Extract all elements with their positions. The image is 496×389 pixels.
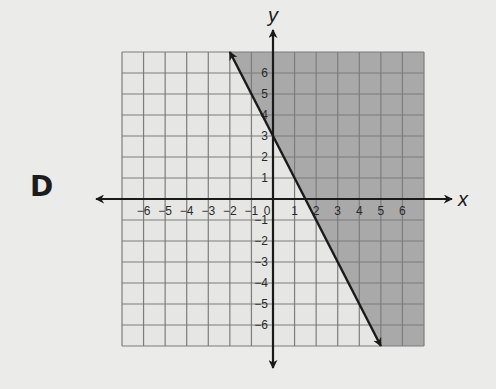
y-tick-label: 1 <box>261 171 268 185</box>
y-tick-label: −3 <box>254 255 268 269</box>
y-tick-label: 5 <box>261 87 268 101</box>
x-tick-label: 4 <box>356 204 363 218</box>
x-tick-label: −5 <box>158 204 172 218</box>
y-tick-label: −6 <box>254 318 268 332</box>
y-tick-label: 3 <box>261 129 268 143</box>
x-tick-label: 6 <box>399 204 406 218</box>
x-tick-label: −6 <box>137 204 151 218</box>
x-tick-label: 1 <box>291 204 298 218</box>
y-tick-label: −1 <box>254 213 268 227</box>
x-tick-label: 3 <box>334 204 341 218</box>
x-axis-label: x <box>457 188 469 210</box>
y-tick-label: −4 <box>254 276 268 290</box>
y-tick-label: −5 <box>254 297 268 311</box>
coordinate-plane: xy −6−5−4−3−2−10123456−6−5−4−3−2−1123456 <box>0 0 496 389</box>
x-tick-label: −2 <box>223 204 237 218</box>
y-tick-label: 6 <box>261 66 268 80</box>
x-tick-label: −4 <box>180 204 194 218</box>
x-tick-label: −3 <box>201 204 215 218</box>
y-axis-label: y <box>266 4 279 26</box>
y-tick-label: −2 <box>254 234 268 248</box>
y-tick-label: 2 <box>261 150 268 164</box>
x-tick-label: 5 <box>378 204 385 218</box>
